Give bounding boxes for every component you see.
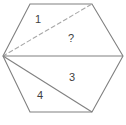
hexagon-figure: 1 ? 3 4 — [0, 0, 126, 125]
hexagon-outline — [3, 4, 123, 112]
region-label-3: 3 — [64, 72, 80, 83]
region-label-1: 1 — [30, 14, 46, 25]
hexagon-diagram-svg — [0, 0, 126, 125]
region-label-unknown: ? — [63, 33, 79, 44]
region-label-4: 4 — [32, 90, 48, 101]
